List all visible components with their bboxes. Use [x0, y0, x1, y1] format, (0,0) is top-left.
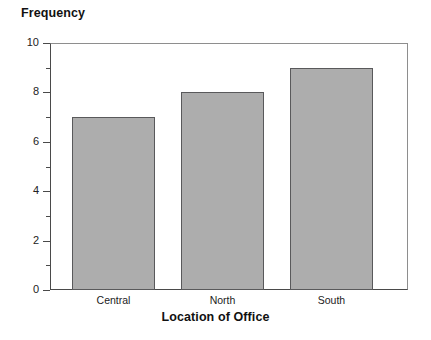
y-tick-label-2: 2 — [33, 234, 39, 246]
y-tick-label-8: 8 — [33, 85, 39, 97]
y-tick-major-10 — [43, 43, 50, 44]
y-tick-major-4 — [43, 191, 50, 192]
x-tick-label-central: Central — [72, 294, 155, 306]
y-tick-minor-9 — [46, 68, 50, 69]
y-tick-label-6: 6 — [33, 135, 39, 147]
y-tick-minor-7 — [46, 117, 50, 118]
x-tick-label-north: North — [181, 294, 264, 306]
bar-chart-figure: Frequency 0246810 CentralNorthSouth Loca… — [0, 0, 431, 340]
y-tick-label-0: 0 — [33, 283, 39, 295]
y-tick-label-10: 10 — [27, 36, 39, 48]
y-tick-minor-1 — [46, 265, 50, 266]
y-tick-major-2 — [43, 241, 50, 242]
y-tick-minor-5 — [46, 167, 50, 168]
bar-rect — [72, 117, 155, 290]
y-tick-minor-3 — [46, 216, 50, 217]
y-axis-title: Frequency — [21, 6, 85, 20]
y-tick-major-8 — [43, 92, 50, 93]
y-tick-label-4: 4 — [33, 184, 39, 196]
y-tick-major-6 — [43, 142, 50, 143]
plot-area — [51, 43, 408, 290]
bar-rect — [290, 68, 373, 290]
bar-rect — [181, 92, 264, 290]
x-axis-title: Location of Office — [0, 310, 431, 324]
x-tick-label-south: South — [290, 294, 373, 306]
y-tick-major-0 — [43, 290, 50, 291]
